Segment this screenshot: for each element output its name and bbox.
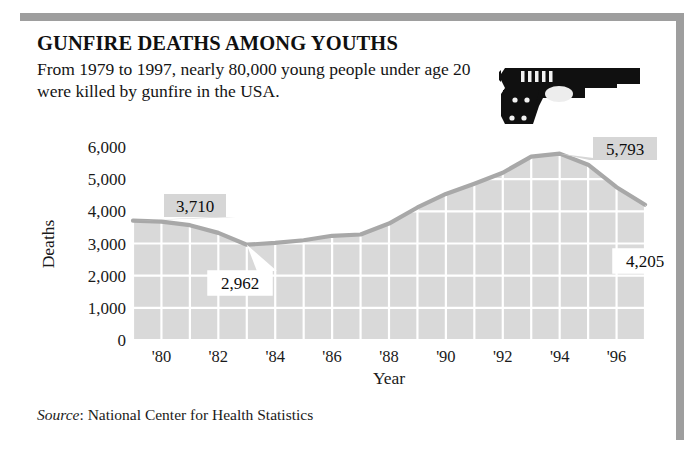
y-tick-label: 1,000 <box>88 299 126 318</box>
y-tick-label: 5,000 <box>88 170 126 189</box>
y-tick-label: 0 <box>118 331 127 350</box>
source-note: Source: National Center for Health Stati… <box>37 406 313 424</box>
y-axis-title: Deaths <box>38 220 58 269</box>
peak-callout: 5,793 <box>606 140 644 159</box>
y-axis-tick-labels: 01,0002,0003,0004,0005,0006,000 <box>88 138 126 350</box>
first-point-callout: 3,710 <box>176 197 214 216</box>
chart-area: 01,0002,0003,0004,0005,0006,000 '80'82'8… <box>12 21 676 440</box>
minimum-callout: 2,962 <box>221 274 259 293</box>
source-label: Source <box>37 406 79 423</box>
x-tick-label: '84 <box>265 347 284 366</box>
source-text: National Center for Health Statistics <box>88 406 314 423</box>
x-tick-label: '86 <box>322 347 341 366</box>
x-tick-label: '90 <box>436 347 455 366</box>
y-tick-label: 6,000 <box>88 138 126 157</box>
border-band-right <box>675 13 684 440</box>
x-axis-title: Year <box>373 368 405 388</box>
infographic-card: GUNFIRE DEATHS AMONG YOUTHS From 1979 to… <box>12 21 676 440</box>
x-tick-label: '92 <box>493 347 512 366</box>
y-tick-label: 4,000 <box>88 202 126 221</box>
x-tick-label: '96 <box>607 347 626 366</box>
y-tick-label: 3,000 <box>88 235 126 254</box>
y-tick-label: 2,000 <box>88 267 126 286</box>
x-axis-tick-labels: '80'82'84'86'88'90'92'94'96 <box>152 347 627 366</box>
x-tick-label: '88 <box>379 347 398 366</box>
last-point-callout: 4,205 <box>626 252 664 271</box>
source-separator: : <box>79 406 87 423</box>
callout-leader <box>645 205 676 249</box>
x-tick-label: '82 <box>209 347 228 366</box>
x-tick-label: '94 <box>550 347 569 366</box>
x-tick-label: '80 <box>152 347 171 366</box>
